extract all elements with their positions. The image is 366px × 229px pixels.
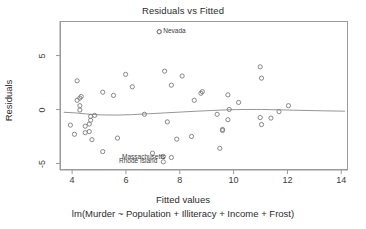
data-point <box>165 120 169 124</box>
x-tick-label: 6 <box>123 175 128 185</box>
outlier-label-rhode-island: Rhode Island <box>119 158 157 165</box>
x-tick-label: 14 <box>336 175 346 185</box>
data-point <box>87 129 91 133</box>
data-point <box>259 76 263 80</box>
data-point <box>180 74 184 78</box>
x-tick-label: 10 <box>229 175 239 185</box>
x-axis-title: Fitted values <box>0 194 366 205</box>
plot-panel: NevadaMassachusettsRhode Island <box>60 21 348 170</box>
data-point <box>124 72 128 76</box>
data-point-labeled <box>169 155 173 159</box>
data-point-labeled <box>157 30 161 34</box>
data-point <box>101 90 105 94</box>
data-point <box>101 149 105 153</box>
plot-subtitle: lm(Murder ~ Population + Illiteracy + In… <box>0 208 366 219</box>
data-point <box>78 108 82 112</box>
scatter-canvas <box>61 22 348 170</box>
data-point <box>68 123 72 127</box>
loess-smoother-line <box>64 109 345 115</box>
data-point <box>169 83 173 87</box>
data-point <box>115 136 119 140</box>
data-point <box>175 137 179 141</box>
data-point <box>226 118 230 122</box>
data-point <box>258 65 262 69</box>
x-tick-label: 8 <box>177 175 182 185</box>
data-point <box>130 85 134 89</box>
data-point <box>90 138 94 142</box>
data-point <box>259 122 263 126</box>
data-point <box>75 79 79 83</box>
data-point <box>83 124 87 128</box>
y-axis-title: Residuals <box>3 80 14 122</box>
page-title: Residuals vs Fitted <box>0 5 366 16</box>
data-point <box>226 93 230 97</box>
y-tick-label: 5 <box>37 53 47 58</box>
data-point <box>72 132 76 136</box>
data-point <box>93 113 97 117</box>
data-point <box>218 146 222 150</box>
data-point <box>83 131 87 135</box>
residuals-vs-fitted-plot: Residuals vs Fitted NevadaMassachusettsR… <box>0 0 366 229</box>
y-tick-label: 0 <box>37 107 47 112</box>
outlier-label-nevada: Nevada <box>163 28 185 35</box>
data-point <box>215 112 219 116</box>
data-point <box>163 69 167 73</box>
data-point <box>189 134 193 138</box>
data-point <box>192 98 196 102</box>
data-point <box>269 116 273 120</box>
x-tick-label: 4 <box>70 175 75 185</box>
y-tick-label: -5 <box>37 160 47 168</box>
data-point <box>78 104 82 108</box>
data-point <box>286 104 290 108</box>
data-point <box>237 100 241 104</box>
data-point <box>111 93 115 97</box>
x-tick-label: 12 <box>282 175 292 185</box>
data-point <box>258 115 262 119</box>
